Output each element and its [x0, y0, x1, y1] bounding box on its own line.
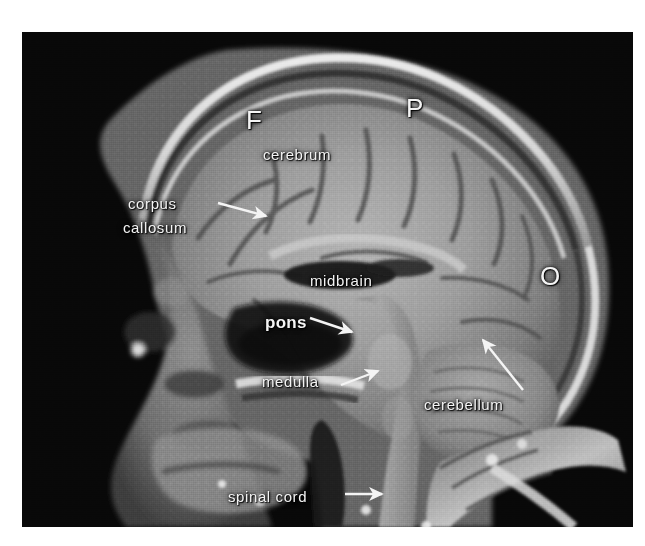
mri-figure: F P O cerebrum corpus callosum midbrain … [0, 0, 645, 546]
oral-cavity [152, 428, 307, 513]
mri-image-panel: F P O cerebrum corpus callosum midbrain … [22, 32, 633, 527]
mri-anatomy-render [22, 32, 633, 527]
